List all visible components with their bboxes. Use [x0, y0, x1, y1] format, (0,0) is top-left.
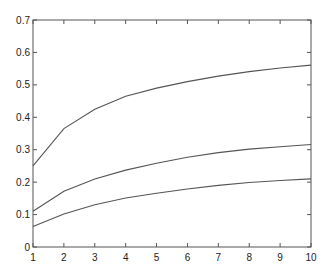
- x-tick-label: 3: [92, 252, 98, 263]
- y-tick-label: 0.1: [16, 209, 30, 220]
- x-axis-ticks: 12345678910: [30, 20, 317, 263]
- line-chart: 00.10.20.30.40.50.60.7 12345678910: [0, 0, 328, 274]
- x-tick-label: 8: [246, 252, 252, 263]
- plot-frame: [33, 20, 311, 247]
- y-tick-label: 0.6: [16, 47, 30, 58]
- x-tick-label: 1: [30, 252, 36, 263]
- y-tick-label: 0.5: [16, 79, 30, 90]
- x-tick-label: 9: [277, 252, 283, 263]
- x-tick-label: 10: [305, 252, 317, 263]
- y-tick-label: 0.3: [16, 144, 30, 155]
- series-line-lower: [33, 179, 311, 227]
- y-tick-label: 0: [24, 242, 30, 253]
- y-tick-label: 0.7: [16, 15, 30, 26]
- y-tick-label: 0.4: [16, 112, 30, 123]
- x-tick-label: 4: [123, 252, 129, 263]
- data-series: [33, 65, 311, 227]
- axes-box: [33, 20, 311, 247]
- x-tick-label: 5: [154, 252, 160, 263]
- series-line-middle: [33, 145, 311, 212]
- x-tick-label: 2: [61, 252, 67, 263]
- x-tick-label: 6: [185, 252, 191, 263]
- y-tick-label: 0.2: [16, 177, 30, 188]
- x-tick-label: 7: [216, 252, 222, 263]
- series-line-upper: [33, 65, 311, 166]
